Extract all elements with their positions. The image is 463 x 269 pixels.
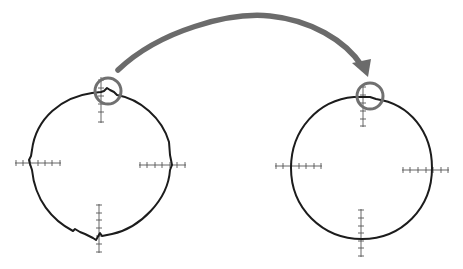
ruler-bottom [358, 209, 364, 257]
before-outline [29, 88, 172, 240]
before-shape [15, 77, 186, 253]
ruler-bottom [96, 204, 102, 253]
transition-arrow [118, 15, 371, 77]
after-shape [275, 83, 449, 257]
diagram-canvas [0, 0, 463, 269]
ruler-left [275, 163, 322, 169]
arrow-head-icon [352, 59, 371, 77]
ruler-right [139, 162, 186, 168]
ruler-right [402, 167, 449, 173]
ruler-left [15, 160, 61, 166]
arrow-shaft [118, 15, 362, 70]
before-highlight-circle [95, 78, 121, 104]
